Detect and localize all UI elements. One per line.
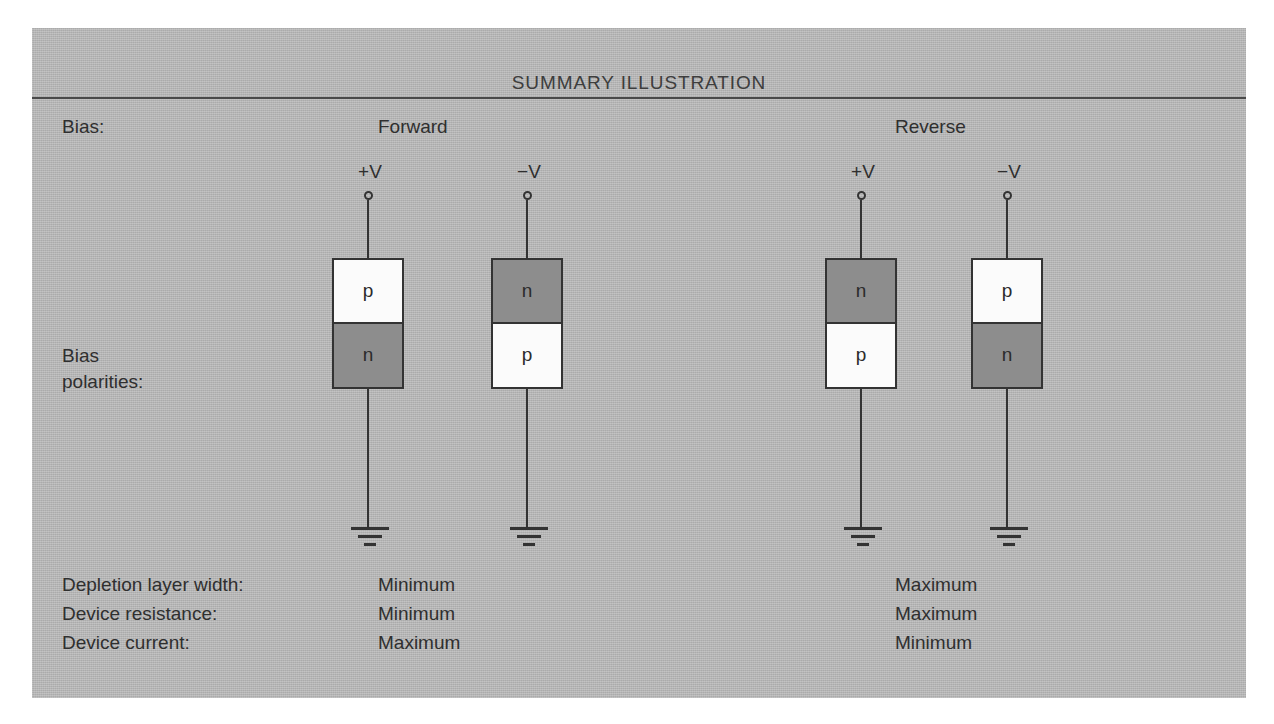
voltage-source-label: −V [489,161,569,183]
wire-top [860,200,862,259]
ground-icon [330,527,410,549]
ground-icon [823,527,903,549]
row-label: Depletion layer width: [62,574,244,596]
wire-top [1006,200,1008,259]
region-bottom: p [493,324,561,388]
region-bottom: n [334,324,402,388]
region-top: n [827,260,895,324]
row-value-forward: Minimum [378,574,455,596]
region-top: p [973,260,1041,324]
ground-icon [489,527,569,549]
region-top: p [334,260,402,324]
terminal-circle-icon [857,191,866,200]
voltage-source-label: +V [823,161,903,183]
voltage-source-label: −V [969,161,1049,183]
wire-top [367,200,369,259]
table-row: Device resistance:MinimumMaximum [32,603,1246,632]
row-value-reverse: Maximum [895,574,977,596]
voltage-source-label: +V [330,161,410,183]
region-bottom: p [827,324,895,388]
wire-top [526,200,528,259]
table-row: Depletion layer width:MinimumMaximum [32,574,1246,603]
terminal-circle-icon [523,191,532,200]
pn-junction-device: np [825,258,897,389]
row-value-forward: Minimum [378,603,455,625]
pn-junction-device: pn [971,258,1043,389]
bias-polarities-label-line1: Bias [62,343,143,369]
summary-illustration-figure: SUMMARY ILLUSTRATION Bias: Forward Rever… [32,28,1246,698]
row-label: Device current: [62,632,190,654]
terminal-circle-icon [1003,191,1012,200]
wire-bottom [860,388,862,529]
bias-polarities-label-line2: polarities: [62,369,143,395]
ground-icon [969,527,1049,549]
bias-reverse-label: Reverse [895,114,966,140]
row-value-reverse: Maximum [895,603,977,625]
row-label: Device resistance: [62,603,217,625]
bias-polarities-label: Bias polarities: [62,343,143,395]
wire-bottom [1006,388,1008,529]
terminal-circle-icon [364,191,373,200]
region-top: n [493,260,561,324]
figure-title: SUMMARY ILLUSTRATION [32,72,1246,94]
row-value-forward: Maximum [378,632,460,654]
wire-bottom [367,388,369,529]
pn-junction-device: np [491,258,563,389]
wire-bottom [526,388,528,529]
table-row: Device current:MaximumMinimum [32,632,1246,661]
region-bottom: n [973,324,1041,388]
row-value-reverse: Minimum [895,632,972,654]
pn-junction-device: pn [332,258,404,389]
title-divider [32,97,1246,99]
bias-row-label: Bias: [62,114,104,140]
